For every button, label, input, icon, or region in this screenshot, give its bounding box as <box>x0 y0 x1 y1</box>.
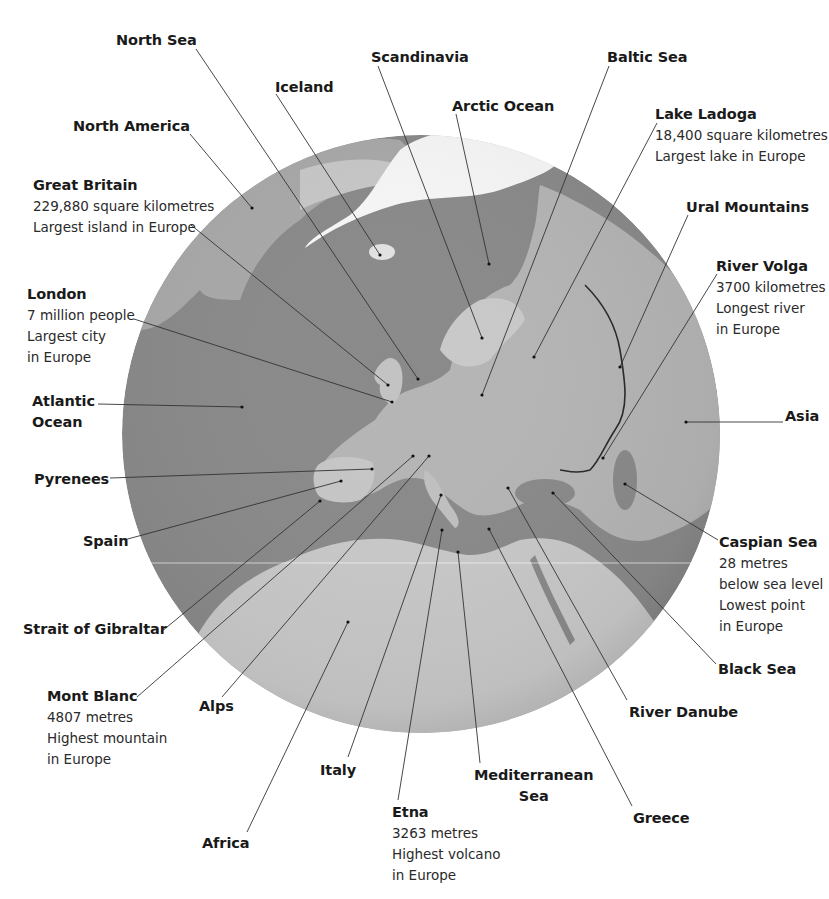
target-dot-mont-blanc <box>411 454 414 457</box>
label-detail: 3700 kilometres <box>716 277 826 298</box>
label-pyrenees: Pyrenees <box>34 469 109 490</box>
label-detail: 229,880 square kilometres <box>33 196 214 217</box>
label-detail: in Europe <box>716 319 826 340</box>
label-mont-blanc: Mont Blanc4807 metresHighest mountainin … <box>47 686 167 770</box>
label-title: Ural Mountains <box>686 197 809 218</box>
target-dot-baltic-sea <box>480 393 483 396</box>
target-dot-italy <box>439 493 442 496</box>
label-spain: Spain <box>83 531 128 552</box>
target-dot-africa <box>346 620 349 623</box>
label-title: Arctic Ocean <box>452 96 554 117</box>
target-dot-ural-mountains <box>618 365 621 368</box>
label-scandinavia: Scandinavia <box>371 47 469 68</box>
label-river-danube: River Danube <box>629 702 738 723</box>
label-title: Scandinavia <box>371 47 469 68</box>
target-dot-north-america <box>250 206 253 209</box>
target-dot-strait-of-gibraltar <box>318 499 321 502</box>
label-title: Baltic Sea <box>607 47 687 68</box>
target-dot-london <box>390 400 393 403</box>
label-arctic-ocean: Arctic Ocean <box>452 96 554 117</box>
label-title: Asia <box>785 406 819 427</box>
label-detail: Highest mountain <box>47 728 167 749</box>
label-detail: Longest river <box>716 298 826 319</box>
label-black-sea: Black Sea <box>718 659 796 680</box>
label-atlantic-ocean: AtlanticOcean <box>32 391 95 433</box>
label-detail: below sea level <box>719 574 823 595</box>
label-detail: 28 metres <box>719 553 823 574</box>
label-detail: in Europe <box>719 616 823 637</box>
label-title: Etna <box>392 802 500 823</box>
label-caspian-sea: Caspian Sea28 metresbelow sea levelLowes… <box>719 532 823 637</box>
label-title: Italy <box>320 760 356 781</box>
label-title: Iceland <box>275 77 334 98</box>
label-great-britain: Great Britain229,880 square kilometresLa… <box>33 175 214 238</box>
label-title: Lake Ladoga <box>655 104 828 125</box>
label-north-america: North America <box>73 116 190 137</box>
label-lake-ladoga: Lake Ladoga18,400 square kilometresLarge… <box>655 104 828 167</box>
label-etna: Etna3263 metresHighest volcanoin Europe <box>392 802 500 886</box>
label-detail: in Europe <box>27 347 135 368</box>
label-title: Black Sea <box>718 659 796 680</box>
label-north-sea: North Sea <box>116 30 197 51</box>
label-title: River Danube <box>629 702 738 723</box>
label-iceland: Iceland <box>275 77 334 98</box>
target-dot-river-danube <box>506 486 509 489</box>
label-title: River Volga <box>716 256 826 277</box>
label-detail: 18,400 square kilometres <box>655 125 828 146</box>
label-detail: 4807 metres <box>47 707 167 728</box>
label-title: Strait of Gibraltar <box>23 619 167 640</box>
label-title: Great Britain <box>33 175 214 196</box>
target-dot-north-sea <box>416 377 419 380</box>
label-detail: in Europe <box>47 749 167 770</box>
label-detail: Lowest point <box>719 595 823 616</box>
target-dot-atlantic-ocean <box>240 405 243 408</box>
label-italy: Italy <box>320 760 356 781</box>
label-detail: 3263 metres <box>392 823 500 844</box>
label-title: North Sea <box>116 30 197 51</box>
label-title: North America <box>73 116 190 137</box>
label-title: Greece <box>633 808 690 829</box>
label-detail: Largest island in Europe <box>33 217 214 238</box>
target-dot-mediterranean-sea <box>456 550 459 553</box>
label-london: London7 million peopleLargest cityin Eur… <box>27 284 135 368</box>
label-detail: Largest lake in Europe <box>655 146 828 167</box>
label-detail: 7 million people <box>27 305 135 326</box>
label-baltic-sea: Baltic Sea <box>607 47 687 68</box>
label-title: Spain <box>83 531 128 552</box>
label-title: Ocean <box>32 412 95 433</box>
label-detail: Highest volcano <box>392 844 500 865</box>
label-detail: in Europe <box>392 865 500 886</box>
target-dot-arctic-ocean <box>487 262 490 265</box>
target-dot-iceland <box>378 253 381 256</box>
label-river-volga: River Volga3700 kilometresLongest riveri… <box>716 256 826 340</box>
label-alps: Alps <box>199 696 234 717</box>
label-asia: Asia <box>785 406 819 427</box>
target-dot-asia <box>684 420 687 423</box>
label-title: Alps <box>199 696 234 717</box>
target-dot-black-sea <box>551 491 554 494</box>
label-title: Atlantic <box>32 391 95 412</box>
label-title: Mediterranean <box>474 765 593 786</box>
label-detail: Largest city <box>27 326 135 347</box>
label-title: Mont Blanc <box>47 686 167 707</box>
target-dot-spain <box>339 479 342 482</box>
target-dot-greece <box>487 527 490 530</box>
label-mediterranean-sea: MediterraneanSea <box>474 765 593 807</box>
label-strait-of-gibraltar: Strait of Gibraltar <box>23 619 167 640</box>
target-dot-pyrenees <box>370 467 373 470</box>
label-title: Caspian Sea <box>719 532 823 553</box>
target-dot-alps <box>427 454 430 457</box>
label-title: London <box>27 284 135 305</box>
label-africa: Africa <box>202 833 249 854</box>
label-greece: Greece <box>633 808 690 829</box>
target-dot-lake-ladoga <box>532 355 535 358</box>
target-dot-etna <box>440 528 443 531</box>
label-title: Africa <box>202 833 249 854</box>
label-ural-mountains: Ural Mountains <box>686 197 809 218</box>
target-dot-river-volga <box>601 456 604 459</box>
target-dot-caspian-sea <box>623 482 626 485</box>
target-dot-great-britain <box>386 383 389 386</box>
label-title: Pyrenees <box>34 469 109 490</box>
target-dot-scandinavia <box>480 336 483 339</box>
